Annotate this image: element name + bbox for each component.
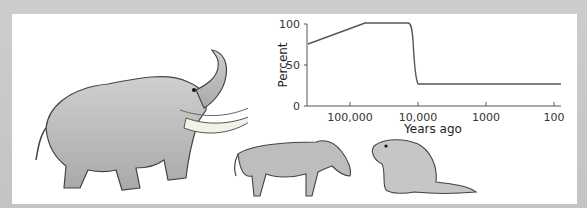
extinction-chart: 100 50 0 100,000 10,000 1000 100 Percent… xyxy=(0,0,587,208)
y-tick-0: 0 xyxy=(293,100,300,113)
y-axis-title: Percent xyxy=(276,42,290,87)
x-tick-100: 100 xyxy=(544,111,565,124)
x-tick-100000: 100,000 xyxy=(327,111,373,124)
x-axis-title: Years ago xyxy=(403,122,462,136)
y-tick-100: 100 xyxy=(279,18,300,31)
percent-line xyxy=(308,23,561,84)
x-tick-1000: 1000 xyxy=(472,111,500,124)
